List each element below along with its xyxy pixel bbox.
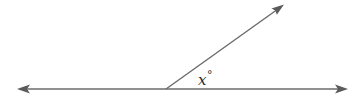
diagram-svg: x °: [0, 0, 356, 106]
angle-variable-label: x: [198, 71, 207, 89]
horizontal-line: [17, 85, 348, 94]
ray: [166, 5, 284, 90]
ray-arrowhead-icon: [272, 5, 285, 15]
angle-diagram: x °: [0, 0, 356, 106]
degree-symbol: °: [207, 68, 213, 81]
